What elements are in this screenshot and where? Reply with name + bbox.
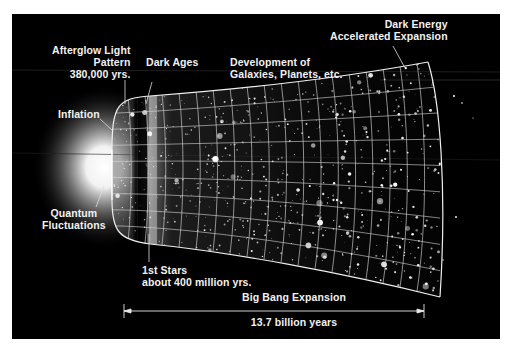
development-label: Development of Galaxies, Planets, etc. <box>230 56 343 80</box>
duration-label: 13.7 billion years <box>224 316 364 328</box>
development-line1: Development of <box>230 56 343 68</box>
dark-energy-pointer <box>393 46 405 68</box>
big-bang-expansion-label: Big Bang Expansion <box>224 291 364 303</box>
afterglow-label: Afterglow Light Pattern 380,000 yrs. <box>52 44 131 80</box>
development-line2: Galaxies, Planets, etc. <box>230 68 343 80</box>
first-stars-label: 1st Stars about 400 million yrs. <box>142 264 252 288</box>
afterglow-line1: Afterglow Light <box>52 44 131 56</box>
afterglow-line2: Pattern <box>52 56 131 68</box>
dark-energy-label: Dark Energy Accelerated Expansion <box>330 18 448 42</box>
inflation-text: Inflation <box>58 108 100 120</box>
first-stars-line1: 1st Stars <box>142 264 252 276</box>
first-stars-line2: about 400 million yrs. <box>142 276 252 288</box>
dark-ages-label: Dark Ages <box>146 56 198 68</box>
inflation-label: Inflation <box>58 108 100 120</box>
dark-energy-line2: Accelerated Expansion <box>330 30 448 42</box>
quantum-line2: Fluctuations <box>42 219 106 231</box>
afterglow-line3: 380,000 yrs. <box>52 68 131 80</box>
dark-ages-text: Dark Ages <box>146 56 198 68</box>
quantum-line1: Quantum <box>42 207 106 219</box>
dark-energy-line1: Dark Energy <box>330 18 448 30</box>
universe-timeline-diagram: Afterglow Light Pattern 380,000 yrs. Dar… <box>12 14 500 339</box>
quantum-fluctuations-label: Quantum Fluctuations <box>42 207 106 231</box>
